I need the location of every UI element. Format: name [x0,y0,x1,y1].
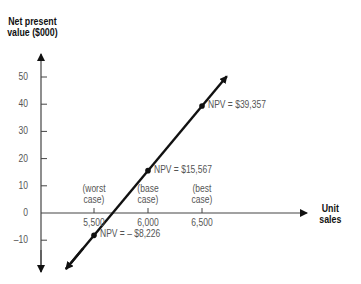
case-label: (bestcase) [185,183,219,205]
data-point [199,103,205,109]
npv-annotation: NPV = – $8,226 [100,228,160,239]
case-label: (basecase) [131,183,165,205]
npv-annotation: NPV = $15,567 [154,164,212,175]
y-tick-label: 50 [11,71,28,82]
y-tick-label: 20 [11,153,28,164]
x-ticks [94,208,202,213]
y-tick-label: 40 [11,98,28,109]
x-axis-title-line-2: sales [318,214,343,225]
y-axis-title: Net present value ($000) [6,16,59,38]
npv-line-lower-arrow [66,248,83,269]
y-axis-title-line-2: value ($000) [6,27,59,38]
x-tick-label: 6,500 [185,217,219,228]
npv-chart [0,0,361,284]
y-tick-label: 30 [11,125,28,136]
y-tick-label: 0 [11,207,28,218]
x-axis-title-line-1: Unit [318,203,343,214]
case-label: (worstcase) [77,183,111,205]
y-tick-label: 10 [11,180,28,191]
x-axis-title: Unit sales [318,203,343,225]
data-point [91,233,97,239]
x-tick-label: 6,000 [131,217,165,228]
y-axis-title-line-1: Net present [6,16,59,27]
y-tick-label: –10 [11,234,28,245]
y-ticks [41,77,47,240]
data-point [145,168,151,174]
x-tick-label: 5,500 [77,217,111,228]
npv-annotation: NPV = $39,357 [208,99,266,110]
